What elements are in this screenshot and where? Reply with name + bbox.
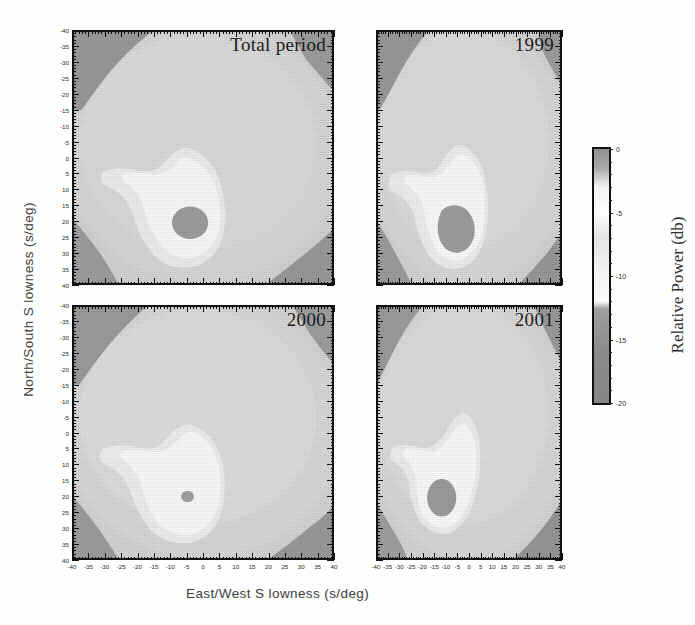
x-axis-minor-tick	[288, 305, 289, 309]
heatmap-2001[interactable]	[376, 305, 562, 560]
panel-2000[interactable]: 2000 -40-35-30-25-20-15-10-5051015202530…	[72, 305, 334, 560]
y-axis-minor-tick	[72, 436, 76, 437]
y-axis-minor-tick	[559, 113, 563, 114]
colorbar-minor-tick	[609, 238, 612, 239]
y-axis-minor-tick	[72, 550, 76, 551]
y-axis-minor-tick	[331, 135, 335, 136]
x-axis-minor-tick	[216, 305, 217, 309]
y-axis-tick	[327, 433, 334, 434]
x-axis-minor-tick	[450, 305, 451, 309]
y-axis-minor-tick	[376, 477, 380, 478]
x-axis-tick	[388, 278, 389, 285]
y-axis-minor-tick	[376, 107, 380, 108]
panel-total-period[interactable]: Total period 4035302520151050-5-10-15-20…	[72, 30, 334, 285]
y-axis-minor-tick	[559, 122, 563, 123]
x-axis-minor-tick	[404, 305, 405, 309]
y-axis-minor-tick	[559, 308, 563, 309]
y-axis-minor-tick	[331, 311, 335, 312]
heatmap-1999[interactable]	[376, 30, 562, 285]
y-axis-minor-tick	[72, 391, 76, 392]
y-axis-minor-tick	[331, 493, 335, 494]
x-axis-minor-tick	[541, 305, 542, 309]
x-axis-tick-label: -40	[68, 563, 77, 570]
x-axis-tick	[504, 30, 505, 37]
x-axis-minor-tick	[443, 557, 444, 561]
x-axis-minor-tick	[128, 30, 129, 34]
y-axis-minor-tick	[559, 263, 563, 264]
y-axis-tick	[72, 237, 79, 238]
x-axis-minor-tick	[450, 557, 451, 561]
x-axis-minor-tick	[164, 30, 165, 34]
y-axis-minor-tick	[331, 490, 335, 491]
x-axis-tick	[481, 553, 482, 560]
y-axis-minor-tick	[72, 68, 76, 69]
y-axis-tick-label: -30	[52, 58, 69, 65]
y-axis-minor-tick	[72, 49, 76, 50]
y-axis-tick-label: -10	[52, 122, 69, 129]
x-axis-minor-tick	[82, 557, 83, 561]
x-axis-minor-tick	[509, 305, 510, 309]
x-axis-minor-tick	[429, 305, 430, 309]
y-axis-minor-tick	[331, 340, 335, 341]
colorbar-gradient	[594, 149, 609, 403]
x-axis-minor-tick	[282, 305, 283, 309]
x-axis-tick-label: 10	[489, 563, 496, 570]
x-axis-minor-tick	[448, 557, 449, 561]
y-axis-minor-tick	[559, 224, 563, 225]
x-axis-tick	[516, 553, 517, 560]
y-axis-minor-tick	[559, 186, 563, 187]
colorbar-tick	[609, 340, 613, 341]
x-axis-minor-tick	[532, 557, 533, 561]
contour-surface	[378, 307, 560, 558]
y-axis-minor-tick	[331, 397, 335, 398]
x-axis-minor-tick	[167, 30, 168, 34]
colorbar[interactable]: 0-5-10-15-20	[592, 147, 611, 405]
x-axis-minor-tick	[548, 282, 549, 286]
y-axis-minor-tick	[559, 183, 563, 184]
x-axis-tick	[105, 278, 106, 285]
x-axis-minor-tick	[288, 30, 289, 34]
x-axis-minor-tick	[174, 282, 175, 286]
x-axis-minor-tick	[226, 557, 227, 561]
heatmap-total-period[interactable]	[72, 30, 334, 285]
y-axis-minor-tick	[72, 107, 76, 108]
colorbar-minor-tick	[609, 352, 612, 353]
y-axis-minor-tick	[559, 474, 563, 475]
heatmap-2000[interactable]	[72, 305, 334, 560]
y-axis-minor-tick	[72, 177, 76, 178]
x-axis-minor-tick	[485, 282, 486, 286]
x-axis-minor-tick	[476, 305, 477, 309]
x-axis-minor-tick	[453, 557, 454, 561]
x-axis-minor-tick	[223, 282, 224, 286]
panel-1999[interactable]: 1999	[376, 30, 562, 285]
y-axis-minor-tick	[376, 315, 380, 316]
y-axis-tick	[376, 496, 383, 497]
y-axis-minor-tick	[331, 56, 335, 57]
y-axis-tick	[72, 158, 79, 159]
panel-2001[interactable]: 2001 -40-35-30-25-20-15-10-5051015202530…	[376, 305, 562, 560]
y-axis-minor-tick	[72, 509, 76, 510]
x-axis-minor-tick	[529, 305, 530, 309]
y-axis-tick	[555, 205, 562, 206]
x-axis-minor-tick	[242, 282, 243, 286]
x-axis-minor-tick	[425, 282, 426, 286]
x-axis-minor-tick	[427, 282, 428, 286]
x-axis-minor-tick	[278, 557, 279, 561]
y-axis-minor-tick	[559, 468, 563, 469]
x-axis-minor-tick	[513, 30, 514, 34]
x-axis-minor-tick	[429, 282, 430, 286]
y-axis-minor-tick	[376, 244, 380, 245]
y-axis-minor-tick	[559, 318, 563, 319]
y-axis-tick	[72, 321, 79, 322]
x-axis-tick	[285, 305, 286, 312]
x-axis-minor-tick	[232, 305, 233, 309]
x-axis-minor-tick	[305, 30, 306, 34]
y-axis-minor-tick	[559, 244, 563, 245]
x-axis-minor-tick	[518, 282, 519, 286]
x-axis-minor-tick	[546, 557, 547, 561]
y-axis-tick	[72, 78, 79, 79]
x-axis-tick	[446, 30, 447, 37]
y-axis-minor-tick	[559, 272, 563, 273]
x-axis-minor-tick	[416, 282, 417, 286]
x-axis-tick-label: -20	[418, 563, 427, 570]
